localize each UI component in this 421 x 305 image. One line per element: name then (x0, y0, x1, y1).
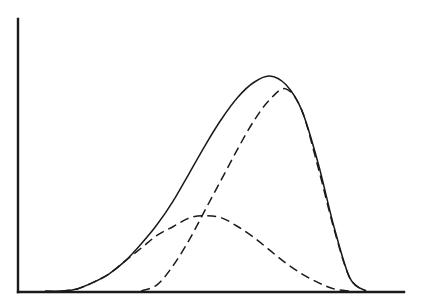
chart (0, 0, 421, 305)
total-curve (45, 76, 366, 291)
component-1-curve (61, 216, 350, 291)
component-2-curve (141, 89, 366, 291)
